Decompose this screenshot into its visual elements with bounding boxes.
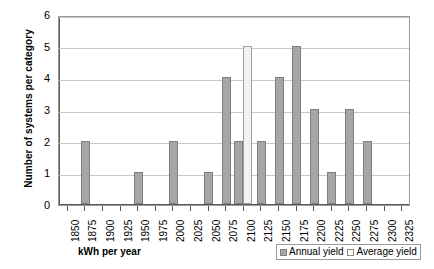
y-tick-label: 5 xyxy=(10,42,50,53)
plot-area xyxy=(58,16,410,206)
x-tick xyxy=(120,206,121,211)
bar-average-yield xyxy=(243,46,252,204)
x-tick xyxy=(278,206,279,211)
x-tick xyxy=(366,206,367,211)
legend-label-annual: Annual yield xyxy=(289,246,343,258)
y-tick-label: 4 xyxy=(10,73,50,84)
x-tick-label: 1875 xyxy=(88,220,98,242)
legend-swatch-average-icon xyxy=(347,249,354,256)
bar-annual-yield xyxy=(292,46,301,204)
bar-annual-yield xyxy=(363,141,372,204)
x-tick-label: 2150 xyxy=(282,220,292,242)
x-tick xyxy=(384,206,385,211)
x-tick-label: 2075 xyxy=(229,220,239,242)
x-tick xyxy=(208,206,209,211)
x-tick xyxy=(102,206,103,211)
x-axis-title: kWh per year xyxy=(78,246,141,257)
chart-figure: Number of systems per category 0123456 1… xyxy=(0,0,434,269)
x-tick-label: 1850 xyxy=(71,220,81,242)
x-tick-label: 2200 xyxy=(317,220,327,242)
x-tick xyxy=(137,206,138,211)
y-tick-label: 6 xyxy=(10,10,50,21)
bar-annual-yield xyxy=(257,141,266,204)
x-tick xyxy=(155,206,156,211)
y-tick-label: 2 xyxy=(10,137,50,148)
x-tick xyxy=(67,206,68,211)
legend-item-average-yield: Average yield xyxy=(347,246,416,258)
y-tick-label: 1 xyxy=(10,168,50,179)
x-tick-label: 2250 xyxy=(352,220,362,242)
x-tick xyxy=(225,206,226,211)
x-tick-label: 1925 xyxy=(124,220,134,242)
legend: Annual yield Average yield xyxy=(276,244,421,260)
x-tick xyxy=(243,206,244,211)
x-tick xyxy=(348,206,349,211)
x-tick xyxy=(260,206,261,211)
x-tick-label: 2175 xyxy=(300,220,310,242)
x-tick-label: 2100 xyxy=(247,220,257,242)
legend-swatch-annual-icon xyxy=(280,249,287,256)
x-tick-label: 2125 xyxy=(264,220,274,242)
x-tick-label: 2050 xyxy=(212,220,222,242)
x-tick-label: 1900 xyxy=(106,220,116,242)
legend-item-annual-yield: Annual yield xyxy=(280,246,343,258)
bar-annual-yield xyxy=(169,141,178,204)
bar-annual-yield xyxy=(222,77,231,204)
x-tick-label: 2300 xyxy=(388,220,398,242)
bar-annual-yield xyxy=(310,109,319,204)
x-tick xyxy=(190,206,191,211)
x-axis-tick-labels: 1850187519001925195019752000202520502075… xyxy=(58,212,410,246)
x-tick-label: 2275 xyxy=(370,220,380,242)
x-tick-label: 1975 xyxy=(159,220,169,242)
bar-annual-yield xyxy=(204,172,213,204)
bar-annual-yield xyxy=(134,172,143,204)
bar-annual-yield xyxy=(345,109,354,204)
x-tick xyxy=(331,206,332,211)
bar-annual-yield xyxy=(81,141,90,204)
x-tick xyxy=(84,206,85,211)
legend-label-average: Average yield xyxy=(356,246,416,258)
x-tick xyxy=(296,206,297,211)
x-tick xyxy=(401,206,402,211)
x-tick-label: 2225 xyxy=(335,220,345,242)
bar-annual-yield xyxy=(275,77,284,204)
bar-series-container xyxy=(59,17,409,205)
y-tick-label: 0 xyxy=(10,200,50,211)
x-tick xyxy=(172,206,173,211)
bar-annual-yield xyxy=(234,141,243,204)
y-tick-label: 3 xyxy=(10,105,50,116)
x-tick-label: 2000 xyxy=(176,220,186,242)
x-tick-label: 2325 xyxy=(405,220,415,242)
x-tick-label: 2025 xyxy=(194,220,204,242)
bar-annual-yield xyxy=(327,172,336,204)
x-tick xyxy=(313,206,314,211)
x-tick-label: 1950 xyxy=(141,220,151,242)
